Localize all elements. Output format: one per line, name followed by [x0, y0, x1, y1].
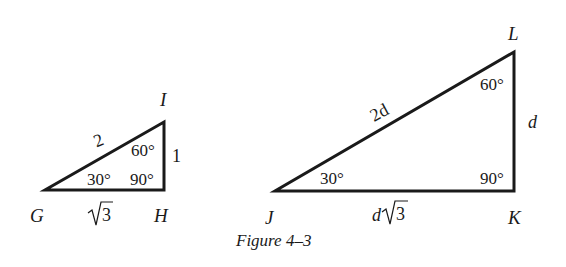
side-gh-label: 3 [88, 202, 113, 225]
angle-k-label: 90° [480, 169, 504, 188]
triangle-ghi: G H I 2 1 3 30° 90° 60° [30, 89, 181, 226]
angle-i-label: 60° [131, 141, 155, 160]
side-gh-radicand: 3 [102, 205, 111, 225]
vertex-k-label: K [507, 207, 522, 228]
vertex-i-label: I [159, 89, 168, 110]
angle-h-label: 90° [130, 170, 154, 189]
triangle-jkl-outline [275, 52, 514, 191]
side-jk-radicand: 3 [396, 204, 405, 224]
side-kl-label: d [528, 112, 538, 132]
angle-g-label: 30° [87, 170, 111, 189]
angle-j-label: 30° [320, 169, 344, 188]
triangle-jkl: J K L 2d d d 3 30° 90° 60° [265, 23, 538, 228]
angle-l-label: 60° [480, 75, 504, 94]
side-hi-label: 1 [172, 146, 181, 166]
vertex-j-label: J [265, 207, 275, 228]
side-jl-label: 2d [366, 99, 391, 125]
figure-4-3: G H I 2 1 3 30° 90° 60° J K L 2d d d 3 3… [0, 0, 566, 267]
side-jk-coefficient: d [372, 205, 382, 225]
vertex-g-label: G [30, 205, 44, 226]
figure-caption: Figure 4–3 [235, 231, 311, 250]
vertex-l-label: L [507, 23, 519, 44]
side-gi-label: 2 [91, 129, 107, 151]
side-jk-label: d 3 [372, 201, 408, 225]
vertex-h-label: H [153, 205, 169, 226]
